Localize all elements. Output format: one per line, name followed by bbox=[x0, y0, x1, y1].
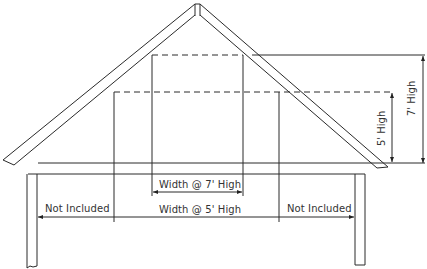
width-7ft-label: Width @ 7' High bbox=[159, 180, 241, 190]
height-5ft-label: 5' High bbox=[377, 111, 387, 146]
height-boundary-lines bbox=[114, 55, 279, 222]
attic-diagram bbox=[0, 0, 427, 269]
not-included-left-label: Not Included bbox=[45, 204, 110, 214]
not-included-right-label: Not Included bbox=[287, 204, 352, 214]
ridge-board bbox=[195, 4, 200, 16]
dashed-level-lines bbox=[114, 55, 394, 92]
left-rafter bbox=[3, 4, 195, 165]
height-7ft-label: 7' High bbox=[407, 81, 417, 116]
right-wall bbox=[355, 174, 365, 265]
right-rafter bbox=[200, 4, 388, 168]
width-5ft-label: Width @ 5' High bbox=[159, 205, 241, 215]
left-wall bbox=[27, 174, 37, 268]
ceiling-joist bbox=[28, 163, 365, 174]
